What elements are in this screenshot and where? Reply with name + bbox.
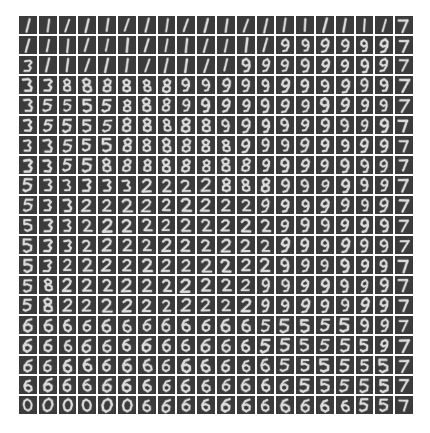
digit-glyph-2 bbox=[197, 176, 215, 194]
digit-glyph-1 bbox=[78, 56, 96, 74]
digit-glyph-6 bbox=[257, 356, 275, 374]
digit-glyph-2 bbox=[158, 256, 176, 274]
manifold-tile bbox=[375, 296, 393, 314]
digit-glyph-3 bbox=[59, 176, 77, 194]
digit-glyph-8 bbox=[138, 136, 156, 154]
digit-glyph-9 bbox=[316, 76, 334, 94]
digit-glyph-9 bbox=[316, 236, 334, 254]
manifold-tile bbox=[356, 396, 374, 414]
digit-glyph-6 bbox=[217, 396, 235, 414]
digit-glyph-2 bbox=[59, 296, 77, 314]
digit-glyph-6 bbox=[98, 356, 116, 374]
manifold-tile bbox=[39, 356, 57, 374]
manifold-tile bbox=[98, 256, 116, 274]
manifold-tile bbox=[39, 176, 57, 194]
digit-glyph-9 bbox=[296, 236, 314, 254]
manifold-tile bbox=[336, 276, 354, 294]
manifold-tile bbox=[39, 196, 57, 214]
manifold-tile bbox=[257, 156, 275, 174]
digit-glyph-8 bbox=[197, 136, 215, 154]
manifold-tile bbox=[257, 196, 275, 214]
manifold-tile bbox=[395, 16, 413, 34]
digit-glyph-6 bbox=[177, 316, 195, 334]
manifold-tile bbox=[78, 156, 96, 174]
manifold-tile bbox=[395, 336, 413, 354]
digit-glyph-2 bbox=[78, 256, 96, 274]
manifold-tile bbox=[118, 96, 136, 114]
manifold-tile bbox=[316, 136, 334, 154]
digit-glyph-5 bbox=[276, 336, 294, 354]
manifold-tile bbox=[19, 396, 37, 414]
manifold-tile bbox=[217, 116, 235, 134]
digit-glyph-2 bbox=[59, 256, 77, 274]
manifold-tile bbox=[375, 256, 393, 274]
manifold-tile bbox=[276, 116, 294, 134]
manifold-tile bbox=[237, 376, 255, 394]
manifold-tile bbox=[59, 56, 77, 74]
manifold-tile bbox=[395, 96, 413, 114]
manifold-tile bbox=[276, 216, 294, 234]
manifold-tile bbox=[276, 156, 294, 174]
digit-glyph-6 bbox=[177, 376, 195, 394]
digit-glyph-2 bbox=[217, 276, 235, 294]
digit-glyph-8 bbox=[98, 76, 116, 94]
manifold-tile bbox=[336, 396, 354, 414]
manifold-tile bbox=[257, 336, 275, 354]
manifold-tile bbox=[336, 256, 354, 274]
digit-glyph-6 bbox=[19, 376, 37, 394]
manifold-tile bbox=[19, 376, 37, 394]
digit-glyph-9 bbox=[316, 36, 334, 54]
manifold-tile bbox=[375, 36, 393, 54]
manifold-tile bbox=[39, 96, 57, 114]
digit-glyph-8 bbox=[158, 136, 176, 154]
digit-glyph-2 bbox=[158, 296, 176, 314]
manifold-tile bbox=[138, 176, 156, 194]
digit-glyph-9 bbox=[296, 296, 314, 314]
digit-glyph-3 bbox=[19, 116, 37, 134]
manifold-tile bbox=[257, 296, 275, 314]
digit-glyph-2 bbox=[118, 276, 136, 294]
manifold-tile bbox=[395, 76, 413, 94]
digit-glyph-6 bbox=[237, 356, 255, 374]
manifold-tile bbox=[395, 56, 413, 74]
digit-glyph-5 bbox=[276, 316, 294, 334]
manifold-tile bbox=[158, 96, 176, 114]
manifold-tile bbox=[158, 36, 176, 54]
digit-glyph-2 bbox=[118, 216, 136, 234]
manifold-tile bbox=[19, 136, 37, 154]
manifold-tile bbox=[316, 156, 334, 174]
digit-glyph-9 bbox=[316, 296, 334, 314]
digit-glyph-9 bbox=[177, 76, 195, 94]
manifold-tile bbox=[197, 156, 215, 174]
digit-glyph-2 bbox=[217, 296, 235, 314]
digit-glyph-3 bbox=[39, 156, 57, 174]
manifold-tile bbox=[336, 76, 354, 94]
digit-glyph-2 bbox=[217, 256, 235, 274]
manifold-tile bbox=[375, 176, 393, 194]
digit-glyph-5 bbox=[19, 196, 37, 214]
digit-glyph-3 bbox=[19, 96, 37, 114]
digit-glyph-2 bbox=[237, 296, 255, 314]
digit-glyph-9 bbox=[276, 256, 294, 274]
manifold-tile bbox=[237, 296, 255, 314]
manifold-tile bbox=[356, 296, 374, 314]
manifold-tile bbox=[19, 76, 37, 94]
digit-glyph-9 bbox=[276, 156, 294, 174]
digit-glyph-5 bbox=[316, 336, 334, 354]
digit-glyph-7 bbox=[395, 136, 413, 154]
digit-glyph-2 bbox=[177, 196, 195, 214]
manifold-tile bbox=[197, 396, 215, 414]
digit-glyph-1 bbox=[316, 16, 334, 34]
manifold-tile bbox=[19, 56, 37, 74]
digit-glyph-6 bbox=[197, 336, 215, 354]
digit-glyph-9 bbox=[336, 56, 354, 74]
digit-glyph-2 bbox=[257, 236, 275, 254]
manifold-tile bbox=[237, 156, 255, 174]
manifold-tile bbox=[138, 76, 156, 94]
digit-glyph-2 bbox=[158, 276, 176, 294]
manifold-tile bbox=[158, 356, 176, 374]
digit-glyph-5 bbox=[39, 96, 57, 114]
manifold-tile bbox=[276, 376, 294, 394]
manifold-tile bbox=[59, 396, 77, 414]
manifold-tile bbox=[19, 236, 37, 254]
